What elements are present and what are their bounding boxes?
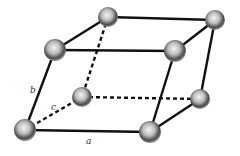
edge-back-right-vertical: [200, 20, 215, 99]
atom-bottom-front-right: [139, 121, 161, 143]
faded-caption: [92, 147, 162, 152]
unit-cell-diagram: b c a: [0, 0, 240, 156]
edge-dashed-vertical-back: [82, 17, 108, 97]
label-a: a: [86, 136, 91, 146]
atom-top-front-right: [164, 40, 186, 62]
atom-top-back-right: [205, 10, 225, 30]
hidden-edges: [25, 17, 200, 130]
label-c: c: [51, 102, 56, 112]
atom-bottom-front-left: [14, 119, 36, 141]
atom-top-back-left: [98, 7, 118, 27]
edge-top-front: [55, 50, 175, 51]
visible-edges: [25, 17, 215, 132]
atom-bottom-back-left: [72, 87, 92, 107]
edge-top-back: [108, 17, 215, 20]
edge-front-right-vertical: [150, 51, 175, 132]
edge-a: [25, 130, 150, 132]
label-b: b: [30, 85, 36, 95]
atom-top-front-left: [44, 39, 66, 61]
edge-dashed-bottom-back: [82, 97, 200, 99]
atom-bottom-back-right: [190, 89, 210, 109]
